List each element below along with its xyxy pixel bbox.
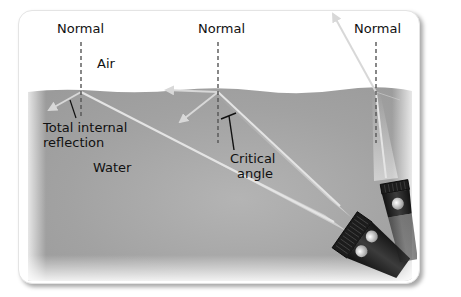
label-critical-angle-line2: angle	[237, 166, 273, 181]
label-normal-middle: Normal	[198, 21, 245, 36]
label-critical-angle-line1: Critical	[230, 151, 275, 166]
label-normal-right: Normal	[354, 21, 401, 36]
label-total-internal-reflection-line2: reflection	[43, 135, 104, 150]
label-total-internal-reflection-line1: Total internal	[43, 120, 127, 135]
label-water: Water	[93, 160, 131, 175]
label-normal-left: Normal	[57, 21, 104, 36]
label-air: Air	[97, 56, 115, 71]
